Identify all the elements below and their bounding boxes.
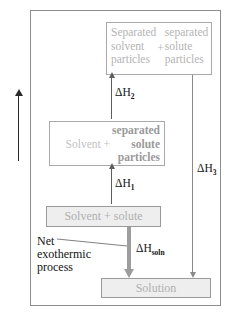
delta-h-soln-symbol: ΔH — [136, 242, 152, 254]
box-separated-particles: Separated solvent particles + separated … — [106, 22, 212, 75]
label-delta-h2: ΔH2 — [115, 86, 134, 101]
diagram-frame: Separated solvent particles + separated … — [30, 10, 221, 306]
delta-h2-symbol: ΔH — [115, 86, 131, 98]
separated-plus-sign: + — [156, 42, 165, 56]
delta-h-soln-subscript: soln — [152, 248, 165, 257]
separated-solvent-line-3: particles — [111, 53, 156, 67]
separated-solvent-line-2: solvent — [111, 40, 156, 54]
enthalpy-of-solution-diagram: Enthalpy Separated solvent particles + s… — [0, 0, 231, 320]
label-delta-h-soln: ΔHsoln — [136, 242, 165, 257]
label-delta-h1: ΔH1 — [115, 177, 134, 192]
delta-h3-symbol: ΔH — [197, 162, 213, 174]
separated-solute-column: separated solute particles — [165, 26, 208, 67]
annotation-line-3: process — [37, 261, 91, 274]
box-solvent-plus-solute: Solvent + solute — [46, 206, 161, 227]
intermediate-line-3: particles — [112, 151, 160, 165]
intermediate-solvent-text: Solvent + — [66, 138, 113, 152]
separated-solute-line-3: particles — [165, 53, 208, 67]
arrow-delta-h3-icon — [192, 75, 193, 272]
arrow-delta-h1-icon — [111, 168, 112, 204]
separated-solvent-line-1: Separated — [111, 26, 156, 40]
intermediate-separated-solute-column: separated solute particles — [112, 124, 160, 165]
label-delta-h3: ΔH3 — [197, 162, 216, 177]
intermediate-row: Solvent + separated solute particles — [50, 124, 160, 165]
delta-h1-subscript: 1 — [131, 183, 135, 192]
separated-solute-line-1: separated — [165, 26, 208, 40]
separated-columns: Separated solvent particles + separated … — [111, 26, 207, 74]
intermediate-line-2: solute — [112, 138, 160, 152]
separated-solvent-column: Separated solvent particles — [111, 26, 156, 67]
enthalpy-axis-arrow-up-icon — [18, 95, 19, 161]
arrow-delta-h2-icon — [111, 77, 112, 119]
box-solvent-plus-separated-solute: Solvent + separated solute particles — [49, 121, 165, 166]
box-solution: Solution — [101, 278, 211, 298]
delta-h3-subscript: 3 — [213, 168, 217, 177]
annotation-leader-line — [57, 238, 129, 250]
delta-h1-symbol: ΔH — [115, 177, 131, 189]
delta-h2-subscript: 2 — [131, 92, 135, 101]
separated-solute-line-2: solute — [165, 40, 208, 54]
intermediate-line-1: separated — [112, 124, 160, 138]
